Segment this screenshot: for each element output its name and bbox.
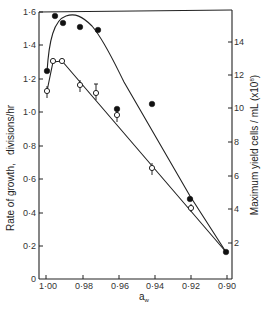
svg-text:0·4: 0·4	[23, 208, 36, 218]
svg-text:0·94: 0·94	[146, 281, 164, 291]
data-point	[50, 58, 55, 63]
data-point	[149, 165, 154, 170]
svg-text:0·92: 0·92	[182, 281, 200, 291]
growth-rate-line	[47, 61, 226, 252]
data-point	[77, 82, 82, 87]
x-axis-title: aw	[139, 291, 150, 303]
svg-text:14: 14	[234, 37, 244, 47]
data-point	[44, 68, 50, 74]
svg-text:4: 4	[234, 204, 239, 214]
svg-text:6: 6	[234, 171, 239, 181]
svg-text:0·8: 0·8	[23, 141, 36, 151]
svg-text:0: 0	[31, 274, 36, 284]
y-axis-left-title: Rate of growth, divisions/hr	[5, 104, 16, 231]
x-axis-labels: 1·00 0·98 0·96 0·94 0·92 0·90	[39, 281, 236, 291]
svg-text:10: 10	[234, 103, 244, 113]
data-point	[44, 88, 49, 93]
svg-text:0·90: 0·90	[218, 281, 236, 291]
svg-text:8: 8	[234, 137, 239, 147]
data-point	[223, 249, 229, 255]
plot-frame	[39, 10, 232, 279]
y-axis-right-labels: 2 4 6 8 10 12 14	[234, 37, 244, 248]
svg-text:0·6: 0·6	[23, 174, 36, 184]
data-point	[114, 112, 119, 117]
data-point	[95, 27, 101, 33]
data-point	[149, 101, 155, 107]
svg-text:0·2: 0·2	[23, 241, 36, 251]
data-point	[188, 205, 193, 210]
svg-text:12: 12	[234, 70, 244, 80]
data-point	[114, 106, 120, 112]
svg-text:1·00: 1·00	[39, 281, 57, 291]
svg-text:0·96: 0·96	[111, 281, 129, 291]
svg-text:1·4: 1·4	[23, 40, 36, 50]
y-axis-right-ticks	[228, 42, 232, 243]
y-axis-left-ticks	[39, 12, 43, 246]
svg-text:1·0: 1·0	[23, 107, 36, 117]
max-yield-curve	[47, 15, 226, 252]
data-point	[187, 196, 193, 202]
data-point	[59, 58, 64, 63]
svg-text:1·6: 1·6	[23, 7, 36, 17]
y-axis-left-labels: 0 0·2 0·4 0·6 0·8 1·0 1·2 1·4 1·6	[23, 7, 36, 284]
svg-text:2: 2	[234, 238, 239, 248]
data-point	[60, 20, 66, 26]
data-point	[52, 13, 58, 19]
max-yield-points	[44, 13, 229, 255]
svg-text:0·98: 0·98	[75, 281, 93, 291]
error-bars	[47, 80, 191, 212]
chart: 0 0·2 0·4 0·6 0·8 1·0 1·2 1·4 1·6 2 4 6 …	[0, 0, 264, 312]
svg-text:1·2: 1·2	[23, 74, 36, 84]
y-axis-right-title: Maximum yield cells / mL (x108)	[249, 75, 260, 215]
x-axis-ticks	[46, 275, 227, 279]
data-point	[77, 24, 83, 30]
data-point	[93, 90, 98, 95]
